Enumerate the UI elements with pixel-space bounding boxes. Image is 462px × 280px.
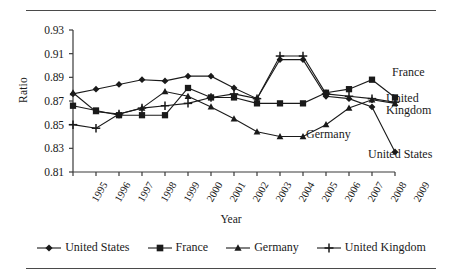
data-point-triangle: [162, 88, 169, 94]
data-point-triangle: [254, 128, 261, 134]
legend-item-germany[interactable]: Germany: [225, 240, 299, 255]
data-point-square: [300, 100, 306, 106]
legend-label: France: [176, 240, 209, 255]
data-point-plus: [161, 101, 170, 110]
annotation-united-states: United States: [368, 148, 432, 160]
triangle-marker-icon: [225, 242, 251, 254]
square-marker-icon: [147, 242, 173, 254]
data-point-plus: [138, 104, 147, 113]
chart-figure: Ratio Year 0.810.830.850.870.890.910.93 …: [0, 0, 462, 280]
legend-label: United States: [65, 240, 129, 255]
data-point-square: [369, 77, 375, 83]
legend-item-united-states[interactable]: United States: [36, 240, 129, 255]
data-point-plus: [324, 243, 333, 252]
data-point-diamond: [162, 77, 169, 84]
data-point-square: [277, 100, 283, 106]
data-point-square: [156, 244, 163, 251]
data-point-square: [70, 103, 76, 109]
data-point-triangle: [208, 103, 215, 109]
data-point-square: [185, 85, 191, 91]
data-point-diamond: [93, 86, 100, 93]
data-point-plus: [69, 120, 78, 129]
data-point-plus: [92, 124, 101, 132]
data-point-triangle: [70, 89, 77, 95]
legend-item-united-kingdom[interactable]: United Kingdom: [316, 240, 426, 255]
annotation-uk-line2: Kingdom: [386, 103, 431, 117]
data-point-square: [139, 112, 145, 118]
plot-area: [0, 0, 462, 280]
data-point-plus: [276, 52, 285, 61]
data-point-diamond: [139, 76, 146, 83]
data-point-diamond: [208, 73, 215, 80]
data-point-square: [346, 86, 352, 92]
data-point-triangle: [231, 115, 238, 121]
plus-marker-icon: [316, 242, 342, 254]
legend-item-france[interactable]: France: [147, 240, 209, 255]
data-point-plus: [299, 52, 308, 61]
data-point-diamond: [46, 244, 53, 251]
data-point-plus: [368, 94, 377, 103]
data-point-plus: [184, 99, 193, 108]
legend-label: Germany: [254, 240, 299, 255]
data-point-square: [162, 112, 168, 118]
annotation-france: France: [392, 66, 425, 78]
data-point-diamond: [116, 81, 123, 88]
legend-label: United Kingdom: [345, 240, 426, 255]
chart-legend: United StatesFranceGermanyUnited Kingdom: [0, 240, 462, 255]
annotation-united-kingdom: United Kingdom: [386, 92, 431, 116]
diamond-marker-icon: [36, 242, 62, 254]
data-point-diamond: [185, 73, 192, 80]
data-point-diamond: [369, 104, 376, 111]
annotation-germany: Germany: [306, 128, 351, 140]
